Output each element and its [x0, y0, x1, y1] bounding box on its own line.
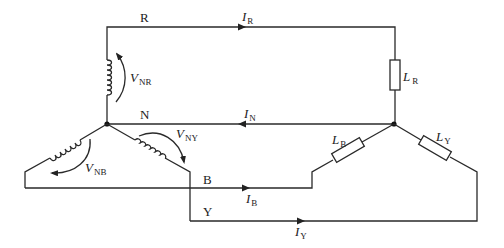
label-load-lb: LB [331, 132, 346, 149]
label-current-iy: IY [294, 224, 307, 241]
label-current-ib: IB [245, 191, 257, 208]
label-load-lr: LR [402, 69, 418, 86]
label-line-b: B [203, 172, 212, 187]
line-b-load [362, 124, 394, 142]
label-line-r: R [140, 10, 149, 25]
voltage-arrow-vnr [116, 54, 125, 102]
current-arrow-ir [238, 24, 246, 31]
label-line-y: Y [203, 204, 213, 219]
line-r [107, 27, 395, 124]
line-y-load [394, 124, 421, 140]
label-load-ly: LY [435, 129, 451, 146]
line-b [25, 160, 333, 188]
circuit-diagram: R N B Y IR IN IB IY VNR VNY VNB LR LB LY [0, 0, 504, 248]
label-current-ir: IR [241, 9, 253, 26]
supply-coil-b [25, 124, 107, 188]
label-current-in: IN [243, 106, 256, 123]
label-line-n: N [140, 107, 150, 122]
line-y [190, 157, 477, 221]
current-arrow-in [238, 121, 246, 128]
label-voltage-vnr: VNR [130, 70, 151, 87]
supply-coil-r [107, 60, 112, 124]
label-voltage-vny: VNY [176, 126, 198, 143]
label-voltage-vnb: VNB [85, 160, 106, 177]
load-resistor-lr [390, 60, 400, 90]
